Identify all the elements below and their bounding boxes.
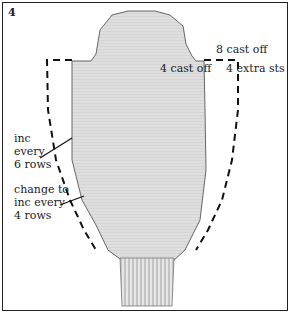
figure-number: 4 [8, 6, 16, 19]
label-inc-line3: 6 rows [14, 158, 51, 171]
label-change-line1: change to [14, 183, 69, 196]
label-4-extra-sts: 4 extra sts [226, 62, 285, 75]
label-change-line3: 4 rows [14, 209, 51, 222]
label-8-cast-off: 8 cast off [216, 43, 267, 56]
label-inc-line1: inc [14, 132, 31, 145]
label-4-cast-off: 4 cast off [160, 62, 211, 75]
label-change-line2: inc every [14, 196, 65, 209]
label-inc-line2: every [14, 145, 45, 158]
figure-number-text: 4 [8, 6, 16, 19]
mitten-body [72, 11, 206, 262]
rib-cuff [120, 258, 174, 306]
